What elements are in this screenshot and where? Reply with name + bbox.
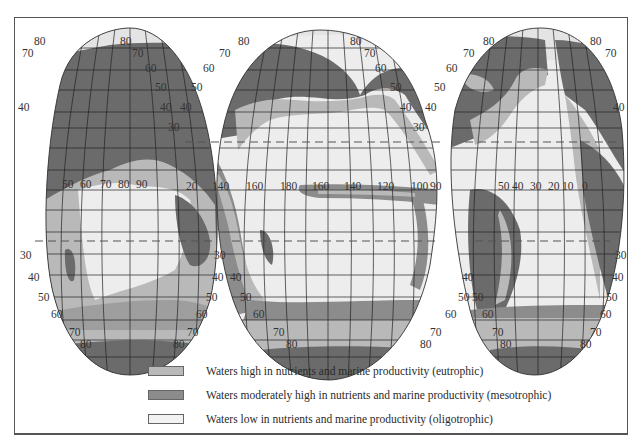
svg-text:40: 40 (425, 101, 437, 113)
svg-text:60: 60 (80, 178, 92, 190)
svg-text:40: 40 (230, 271, 242, 283)
svg-text:40: 40 (612, 271, 624, 283)
svg-text:140: 140 (212, 180, 230, 192)
map-legend: Waters high in nutrients and marine prod… (148, 359, 588, 431)
svg-text:40: 40 (160, 101, 172, 113)
svg-text:70: 70 (22, 47, 34, 59)
oligotrophic-swatch (148, 414, 184, 424)
svg-text:100: 100 (411, 180, 429, 192)
svg-text:80: 80 (173, 338, 185, 350)
svg-text:70: 70 (605, 47, 617, 59)
svg-text:80: 80 (483, 35, 495, 47)
lobe-pacific-ocean (210, 20, 450, 390)
svg-text:50: 50 (240, 291, 252, 303)
eutrophic-swatch (148, 366, 184, 376)
svg-text:60: 60 (445, 308, 457, 320)
legend-item-eutrophic: Waters high in nutrients and marine prod… (148, 359, 588, 383)
svg-text:30: 30 (20, 249, 32, 261)
svg-text:50: 50 (38, 291, 50, 303)
svg-text:60: 60 (253, 308, 265, 320)
svg-text:50: 50 (390, 81, 402, 93)
legend-label-mesotrophic: Waters moderately high in nutrients and … (206, 389, 551, 401)
svg-text:70: 70 (590, 326, 602, 338)
svg-text:80: 80 (120, 35, 132, 47)
svg-text:40: 40 (400, 101, 412, 113)
svg-text:60: 60 (145, 62, 157, 74)
svg-text:30: 30 (413, 121, 425, 133)
svg-text:80: 80 (286, 338, 298, 350)
svg-text:50: 50 (434, 81, 446, 93)
svg-text:80: 80 (80, 338, 92, 350)
svg-text:60: 60 (482, 308, 494, 320)
svg-text:90: 90 (136, 178, 148, 190)
svg-text:60: 60 (446, 62, 458, 74)
svg-text:70: 70 (463, 47, 475, 59)
svg-text:50: 50 (155, 81, 167, 93)
svg-text:30: 30 (214, 249, 226, 261)
svg-text:50: 50 (191, 81, 203, 93)
svg-text:40: 40 (462, 271, 474, 283)
svg-text:80: 80 (238, 35, 250, 47)
svg-text:180: 180 (280, 180, 298, 192)
svg-text:50: 50 (458, 291, 470, 303)
svg-text:70: 70 (132, 47, 144, 59)
svg-text:30: 30 (168, 121, 180, 133)
svg-text:80: 80 (500, 338, 512, 350)
svg-text:80: 80 (580, 338, 592, 350)
svg-text:50: 50 (498, 180, 510, 192)
svg-text:0: 0 (582, 180, 588, 192)
svg-text:10: 10 (562, 180, 574, 192)
svg-text:70: 70 (492, 326, 504, 338)
svg-text:80: 80 (350, 35, 362, 47)
svg-text:50: 50 (606, 291, 618, 303)
svg-text:40: 40 (180, 101, 192, 113)
svg-text:70: 70 (364, 47, 376, 59)
mesotrophic-swatch (148, 390, 184, 400)
svg-text:80: 80 (420, 338, 432, 350)
svg-text:60: 60 (196, 308, 208, 320)
svg-text:60: 60 (375, 62, 387, 74)
svg-text:40: 40 (512, 180, 524, 192)
svg-text:70: 70 (430, 326, 442, 338)
svg-text:140: 140 (344, 180, 362, 192)
svg-text:30: 30 (615, 249, 627, 261)
svg-text:70: 70 (219, 47, 231, 59)
legend-item-mesotrophic: Waters moderately high in nutrients and … (148, 383, 588, 407)
svg-text:90: 90 (430, 180, 442, 192)
svg-text:60: 60 (203, 62, 215, 74)
svg-text:50: 50 (62, 178, 74, 190)
svg-text:20: 20 (548, 180, 560, 192)
svg-text:70: 70 (69, 326, 81, 338)
svg-text:50: 50 (472, 291, 484, 303)
svg-text:40: 40 (212, 271, 224, 283)
svg-text:20: 20 (186, 180, 198, 192)
svg-text:50: 50 (206, 291, 218, 303)
svg-text:70: 70 (100, 178, 112, 190)
svg-text:160: 160 (246, 180, 264, 192)
svg-text:40: 40 (28, 271, 40, 283)
svg-text:70: 70 (187, 326, 199, 338)
svg-text:40: 40 (18, 101, 30, 113)
svg-text:160: 160 (312, 180, 330, 192)
svg-text:80: 80 (590, 35, 602, 47)
svg-text:120: 120 (377, 180, 395, 192)
svg-text:60: 60 (51, 308, 63, 320)
svg-text:40: 40 (613, 101, 625, 113)
legend-label-eutrophic: Waters high in nutrients and marine prod… (206, 365, 483, 377)
svg-text:30: 30 (530, 180, 542, 192)
legend-label-oligotrophic: Waters low in nutrients and marine produ… (206, 413, 493, 425)
svg-text:70: 70 (273, 326, 285, 338)
svg-text:80: 80 (34, 35, 46, 47)
svg-text:80: 80 (118, 178, 130, 190)
svg-text:60: 60 (600, 308, 612, 320)
legend-item-oligotrophic: Waters low in nutrients and marine produ… (148, 407, 588, 431)
